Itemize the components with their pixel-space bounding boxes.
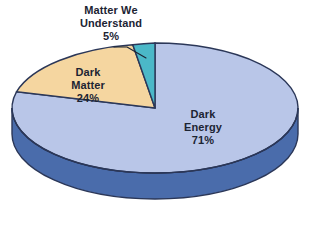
slice-label-dark-matter: Dark Matter 24% xyxy=(57,66,119,105)
slice-label-line-1: Dark xyxy=(57,66,119,79)
slice-label-value: 5% xyxy=(58,30,164,43)
slice-label-line-2: Understand xyxy=(58,17,164,30)
pie-chart-figure: Matter We Understand 5% Dark Matter 24% … xyxy=(0,0,312,236)
slice-label-matter-we-understand: Matter We Understand 5% xyxy=(58,4,164,43)
slice-label-line-2: Energy xyxy=(170,121,236,134)
slice-label-value: 71% xyxy=(170,134,236,147)
pie-top-face xyxy=(12,43,298,173)
slice-label-line-1: Dark xyxy=(170,108,236,121)
slice-label-line-1: Matter We xyxy=(58,4,164,17)
slice-label-dark-energy: Dark Energy 71% xyxy=(170,108,236,147)
slice-label-value: 24% xyxy=(57,92,119,105)
slice-label-line-2: Matter xyxy=(57,79,119,92)
